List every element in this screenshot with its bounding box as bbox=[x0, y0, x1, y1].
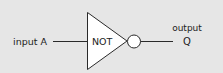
inversion-bubble bbox=[128, 35, 141, 48]
not-gate-diagram: input A NOT output Q bbox=[0, 0, 223, 73]
output-label: output bbox=[172, 23, 202, 33]
gate-label: NOT bbox=[92, 36, 113, 47]
output-symbol: Q bbox=[183, 36, 191, 47]
input-label: input A bbox=[13, 36, 47, 47]
